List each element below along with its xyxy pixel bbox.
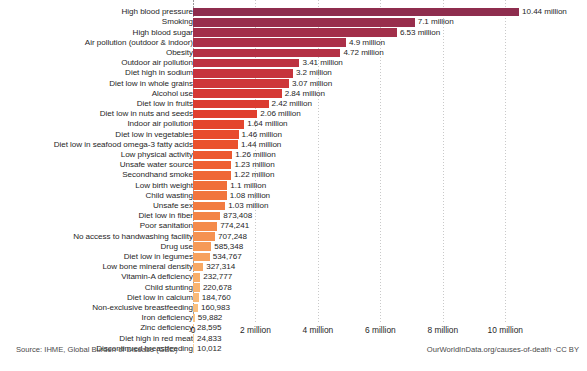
- bar-value-label: 327,314: [206, 262, 235, 272]
- bar-category-label: Diet low in legumes: [3, 252, 193, 262]
- bar-value-label: 585,348: [214, 242, 243, 252]
- x-tick-label: 4 million: [303, 324, 334, 336]
- bar[interactable]: [193, 140, 238, 149]
- bar[interactable]: [193, 38, 346, 47]
- bar[interactable]: [193, 130, 239, 139]
- bar-row: Diet low in seafood omega-3 fatty acids1…: [0, 140, 587, 150]
- bar-row: Unsafe water source1.23 million: [0, 160, 587, 170]
- bar-row: Low bone mineral density327,314: [0, 262, 587, 272]
- bar[interactable]: [193, 293, 199, 302]
- bar-category-label: Poor sanitation: [3, 221, 193, 231]
- bar-category-label: High blood sugar: [3, 28, 193, 38]
- bar-value-label: 3.41 million: [302, 58, 342, 68]
- bar-value-label: 4.72 million: [343, 48, 383, 58]
- bar[interactable]: [193, 212, 220, 221]
- bar[interactable]: [193, 69, 293, 78]
- bar-value-label: 1.46 million: [242, 130, 282, 140]
- bar-value-label: 220,678: [203, 283, 232, 293]
- plot-area: High blood pressure10.44 millionSmoking7…: [0, 0, 587, 322]
- bar-row: Indoor air pollution1.64 million: [0, 119, 587, 129]
- bar-category-label: Unsafe water source: [3, 160, 193, 170]
- bar-row: Diet low in whole grains3.07 million: [0, 79, 587, 89]
- bar[interactable]: [193, 232, 215, 241]
- bar-value-label: 2.84 million: [285, 89, 325, 99]
- bar-value-label: 10.44 million: [522, 7, 567, 17]
- bar-category-label: Diet low in nuts and seeds: [3, 109, 193, 119]
- bar-value-label: 1.08 million: [230, 191, 270, 201]
- bar-value-label: 184,760: [202, 293, 231, 303]
- bar-value-label: 3.07 million: [292, 79, 332, 89]
- bar-value-label: 1.23 million: [234, 160, 274, 170]
- chart-footer: Source: IHME, Global Burden of Disease (…: [0, 344, 587, 360]
- bar-row: Unsafe sex1.03 million: [0, 201, 587, 211]
- bar-category-label: Low birth weight: [3, 181, 193, 191]
- bar-value-label: 774,241: [220, 221, 249, 231]
- bar-row: Non-exclusive breastfeeding160,983: [0, 303, 587, 313]
- bar[interactable]: [193, 110, 257, 119]
- bar-value-label: 4.9 million: [349, 38, 385, 48]
- bar[interactable]: [193, 28, 397, 37]
- bar[interactable]: [193, 59, 299, 68]
- bar-category-label: Diet low in whole grains: [3, 79, 193, 89]
- bar[interactable]: [193, 18, 415, 27]
- bar-category-label: Air pollution (outdoor & indoor): [3, 38, 193, 48]
- bar-value-label: 2.06 million: [260, 109, 300, 119]
- bar-category-label: No access to handwashing facility: [3, 232, 193, 242]
- bar[interactable]: [193, 242, 211, 251]
- bar[interactable]: [193, 120, 244, 129]
- bar-value-label: 1.26 million: [235, 150, 275, 160]
- bar-row: Secondhand smoke1.22 million: [0, 170, 587, 180]
- bar-row: Drug use585,348: [0, 242, 587, 252]
- bar[interactable]: [193, 171, 231, 180]
- bar[interactable]: [193, 49, 340, 58]
- bar[interactable]: [193, 253, 210, 262]
- bar-category-label: Diet low in fruits: [3, 99, 193, 109]
- bar-category-label: Outdoor air pollution: [3, 58, 193, 68]
- bar[interactable]: [193, 283, 200, 292]
- bar[interactable]: [193, 8, 519, 17]
- bar-category-label: Diet high in sodium: [3, 68, 193, 78]
- bar[interactable]: [193, 191, 227, 200]
- chart-container: High blood pressure10.44 millionSmoking7…: [0, 0, 587, 371]
- bar-value-label: 1.64 million: [247, 119, 287, 129]
- bar-row: High blood sugar6.53 million: [0, 28, 587, 38]
- bar-row: Poor sanitation774,241: [0, 221, 587, 231]
- bar[interactable]: [193, 151, 232, 160]
- bar[interactable]: [193, 304, 198, 313]
- bar[interactable]: [193, 222, 217, 231]
- bar-row: Diet low in fiber873,408: [0, 211, 587, 221]
- bar-category-label: Diet low in fiber: [3, 211, 193, 221]
- bar[interactable]: [193, 79, 289, 88]
- bar-value-label: 534,767: [213, 252, 242, 262]
- bar[interactable]: [193, 161, 231, 170]
- bar[interactable]: [193, 181, 227, 190]
- bar-category-label: Child wasting: [3, 191, 193, 201]
- bar-row: Diet high in sodium3.2 million: [0, 68, 587, 78]
- bar-category-label: Obesity: [3, 48, 193, 58]
- bar-category-label: Non-exclusive breastfeeding: [3, 303, 193, 313]
- bar[interactable]: [193, 202, 225, 211]
- bar[interactable]: [193, 100, 269, 109]
- bar-value-label: 6.53 million: [400, 28, 440, 38]
- bar-value-label: 873,408: [223, 211, 252, 221]
- bar-value-label: 1.03 million: [228, 201, 268, 211]
- x-tick-label: 8 million: [427, 324, 458, 336]
- bar-category-label: High blood pressure: [3, 7, 193, 17]
- x-tick-label: 2 million: [240, 324, 271, 336]
- bar-row: Diet low in calcium184,760: [0, 293, 587, 303]
- bar-value-label: 1.1 million: [230, 181, 266, 191]
- bar-value-label: 232,777: [203, 272, 232, 282]
- bar[interactable]: [193, 263, 203, 272]
- bar-row: No access to handwashing facility707,248: [0, 232, 587, 242]
- bar-value-label: 7.1 million: [418, 17, 454, 27]
- bar-row: High blood pressure10.44 million: [0, 7, 587, 17]
- x-axis: 02 million4 million6 million8 million10 …: [0, 322, 587, 340]
- bar-row: Alcohol use2.84 million: [0, 89, 587, 99]
- bar-category-label: Unsafe sex: [3, 201, 193, 211]
- bar-row: Obesity4.72 million: [0, 48, 587, 58]
- bar[interactable]: [193, 89, 282, 98]
- bar[interactable]: [193, 273, 200, 282]
- attribution-note: OurWorldInData.org/causes-of-death ·CC B…: [427, 344, 579, 356]
- x-tick-label: 6 million: [365, 324, 396, 336]
- source-note: Source: IHME, Global Burden of Disease (…: [16, 344, 178, 356]
